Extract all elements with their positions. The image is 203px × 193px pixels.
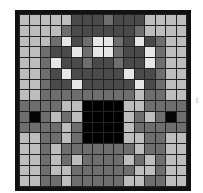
grid-cell[interactable] bbox=[177, 133, 186, 143]
grid-cell[interactable] bbox=[20, 47, 29, 57]
grid-cell[interactable] bbox=[156, 144, 165, 154]
grid-cell[interactable] bbox=[166, 144, 175, 154]
grid-cell[interactable] bbox=[104, 47, 113, 57]
grid-cell[interactable] bbox=[62, 58, 71, 68]
grid-cell[interactable] bbox=[83, 26, 92, 36]
grid-cell[interactable] bbox=[166, 15, 175, 25]
grid-cell[interactable] bbox=[20, 112, 29, 122]
grid-cell[interactable] bbox=[83, 155, 92, 165]
grid-cell[interactable] bbox=[177, 90, 186, 100]
grid-cell[interactable] bbox=[30, 133, 39, 143]
grid-cell[interactable] bbox=[104, 176, 113, 186]
grid-cell[interactable] bbox=[83, 69, 92, 79]
grid-cell[interactable] bbox=[166, 80, 175, 90]
grid-cell[interactable] bbox=[104, 112, 113, 122]
grid-cell[interactable] bbox=[83, 144, 92, 154]
grid-cell[interactable] bbox=[41, 90, 50, 100]
grid-cell[interactable] bbox=[177, 26, 186, 36]
grid-cell[interactable] bbox=[62, 123, 71, 133]
grid-cell[interactable] bbox=[83, 133, 92, 143]
grid-cell[interactable] bbox=[145, 15, 154, 25]
grid-cell[interactable] bbox=[20, 69, 29, 79]
grid-cell[interactable] bbox=[124, 47, 133, 57]
grid-cell[interactable] bbox=[72, 80, 81, 90]
grid-cell[interactable] bbox=[62, 133, 71, 143]
grid-cell[interactable] bbox=[114, 101, 123, 111]
grid-cell[interactable] bbox=[124, 112, 133, 122]
grid-cell[interactable] bbox=[72, 58, 81, 68]
grid-cell[interactable] bbox=[41, 80, 50, 90]
grid-cell[interactable] bbox=[104, 26, 113, 36]
grid-cell[interactable] bbox=[93, 144, 102, 154]
grid-cell[interactable] bbox=[166, 58, 175, 68]
grid-cell[interactable] bbox=[20, 123, 29, 133]
grid-cell[interactable] bbox=[20, 166, 29, 176]
grid-cell[interactable] bbox=[156, 176, 165, 186]
grid-cell[interactable] bbox=[177, 69, 186, 79]
grid-cell[interactable] bbox=[93, 15, 102, 25]
grid-cell[interactable] bbox=[114, 144, 123, 154]
grid-cell[interactable] bbox=[156, 166, 165, 176]
grid-cell[interactable] bbox=[51, 176, 60, 186]
grid-cell[interactable] bbox=[72, 37, 81, 47]
grid-cell[interactable] bbox=[124, 58, 133, 68]
grid-cell[interactable] bbox=[41, 144, 50, 154]
grid-cell[interactable] bbox=[41, 123, 50, 133]
grid-cell[interactable] bbox=[51, 133, 60, 143]
grid-cell[interactable] bbox=[124, 26, 133, 36]
grid-cell[interactable] bbox=[177, 37, 186, 47]
grid-cell[interactable] bbox=[166, 155, 175, 165]
grid-cell[interactable] bbox=[114, 176, 123, 186]
grid-cell[interactable] bbox=[177, 112, 186, 122]
grid-cell[interactable] bbox=[114, 47, 123, 57]
grid-cell[interactable] bbox=[62, 37, 71, 47]
grid-cell[interactable] bbox=[114, 37, 123, 47]
grid-cell[interactable] bbox=[166, 47, 175, 57]
grid-cell[interactable] bbox=[145, 101, 154, 111]
grid-cell[interactable] bbox=[41, 26, 50, 36]
grid-cell[interactable] bbox=[62, 26, 71, 36]
grid-cell[interactable] bbox=[135, 155, 144, 165]
grid-cell[interactable] bbox=[145, 37, 154, 47]
grid-cell[interactable] bbox=[30, 69, 39, 79]
grid-cell[interactable] bbox=[62, 112, 71, 122]
grid-cell[interactable] bbox=[135, 26, 144, 36]
grid-cell[interactable] bbox=[114, 112, 123, 122]
grid-cell[interactable] bbox=[83, 37, 92, 47]
grid-cell[interactable] bbox=[156, 37, 165, 47]
grid-cell[interactable] bbox=[41, 15, 50, 25]
grid-cell[interactable] bbox=[104, 144, 113, 154]
grid-cell[interactable] bbox=[41, 69, 50, 79]
grid-cell[interactable] bbox=[145, 47, 154, 57]
grid-cell[interactable] bbox=[93, 26, 102, 36]
grid-cell[interactable] bbox=[145, 144, 154, 154]
grid-cell[interactable] bbox=[51, 112, 60, 122]
grid-cell[interactable] bbox=[156, 69, 165, 79]
grid-cell[interactable] bbox=[114, 80, 123, 90]
grid-cell[interactable] bbox=[114, 15, 123, 25]
grid-cell[interactable] bbox=[135, 69, 144, 79]
grid-cell[interactable] bbox=[104, 69, 113, 79]
grid-cell[interactable] bbox=[72, 26, 81, 36]
grid-cell[interactable] bbox=[145, 69, 154, 79]
grid-cell[interactable] bbox=[166, 90, 175, 100]
grid-cell[interactable] bbox=[72, 69, 81, 79]
grid-cell[interactable] bbox=[30, 166, 39, 176]
grid-cell[interactable] bbox=[93, 133, 102, 143]
grid-cell[interactable] bbox=[124, 176, 133, 186]
grid-cell[interactable] bbox=[20, 15, 29, 25]
grid-cell[interactable] bbox=[72, 47, 81, 57]
grid-cell[interactable] bbox=[124, 123, 133, 133]
grid-cell[interactable] bbox=[51, 37, 60, 47]
grid-cell[interactable] bbox=[145, 176, 154, 186]
grid-cell[interactable] bbox=[41, 133, 50, 143]
grid-cell[interactable] bbox=[114, 58, 123, 68]
grid-cell[interactable] bbox=[166, 176, 175, 186]
grid-cell[interactable] bbox=[156, 101, 165, 111]
grid-cell[interactable] bbox=[93, 58, 102, 68]
grid-cell[interactable] bbox=[114, 90, 123, 100]
grid-cell[interactable] bbox=[30, 80, 39, 90]
grid-cell[interactable] bbox=[177, 80, 186, 90]
grid-cell[interactable] bbox=[145, 26, 154, 36]
grid-cell[interactable] bbox=[114, 155, 123, 165]
